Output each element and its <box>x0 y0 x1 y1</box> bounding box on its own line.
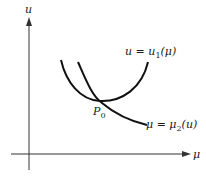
curve-u1-label: u = u1(μ) <box>125 46 176 60</box>
x-axis-label-text: μ <box>193 148 200 161</box>
diagram-canvas <box>0 0 206 178</box>
diagram-figure: u μ u = u1(μ) μ = μ2(u) P0 <box>0 0 206 178</box>
curve-u1-label-rhs: (μ) <box>160 45 176 58</box>
y-axis-label: u <box>25 4 32 15</box>
y-axis-label-text: u <box>25 3 32 16</box>
curve-u1 <box>61 60 148 101</box>
curve-mu2-label-rhs: (u) <box>182 118 198 131</box>
point-label-sub: 0 <box>100 111 105 120</box>
point-p0-label: P0 <box>93 106 106 120</box>
x-axis-arrow-icon <box>182 151 191 157</box>
x-axis-label: μ <box>193 149 200 160</box>
curve-mu2-label: μ = μ2(u) <box>146 119 197 133</box>
curve-mu2 <box>78 62 147 125</box>
curve-u1-label-lhs: u = u <box>125 45 155 58</box>
y-axis-arrow-icon <box>26 17 32 26</box>
curve-mu2-label-lhs: μ = μ <box>146 118 177 131</box>
